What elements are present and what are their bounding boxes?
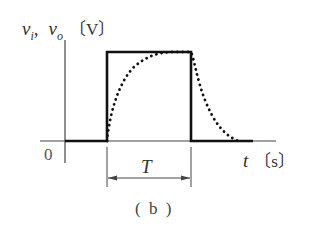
- arrow-head-right-icon: [181, 176, 190, 181]
- x-axis-unit: 〔s〕: [254, 152, 295, 171]
- t-symbol: t: [243, 150, 248, 171]
- arrow-head-left-icon: [108, 176, 117, 181]
- vo-response-curve: [107, 52, 238, 141]
- vo-subscript: o: [57, 29, 63, 43]
- label-separator: ,: [34, 18, 39, 39]
- x-axis-label: t 〔s〕: [243, 147, 295, 172]
- y-axis-unit: 〔V〕: [69, 20, 115, 39]
- y-axis-label: vi, vo 〔V〕: [22, 15, 115, 44]
- pulse-width-label: T: [141, 156, 152, 178]
- origin-label: 0: [44, 145, 53, 165]
- vo-symbol: v: [49, 18, 57, 39]
- figure-caption: ( b ): [135, 199, 173, 219]
- vi-pulse-curve: [65, 52, 253, 141]
